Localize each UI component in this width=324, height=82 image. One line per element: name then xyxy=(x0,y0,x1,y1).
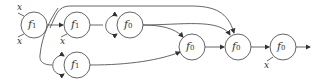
diagram-edges xyxy=(0,0,324,82)
node-label: f1 xyxy=(71,59,80,70)
input-label-x: x xyxy=(264,61,269,70)
node-label: f0 xyxy=(277,41,286,52)
node-label: f0 xyxy=(232,41,241,52)
input-label-x: x xyxy=(60,37,65,46)
input-label-x: x xyxy=(17,3,22,12)
input-label-x: x xyxy=(17,37,22,46)
node-label: f1 xyxy=(28,19,37,30)
node-label: f0 xyxy=(124,19,133,30)
node-label: f0 xyxy=(186,41,195,52)
circuit-diagram: f1 f1 f0 f1 f0 f0 f0 x x x x xyxy=(0,0,324,82)
node-label: f1 xyxy=(71,19,80,30)
